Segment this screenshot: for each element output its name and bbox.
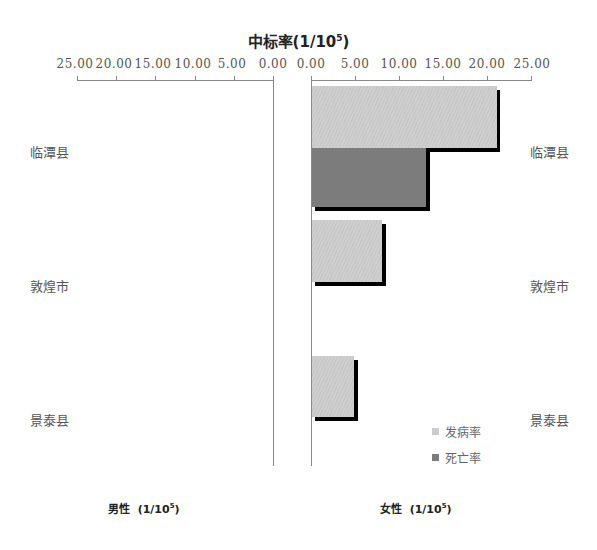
axis-tick — [116, 76, 117, 81]
unit-prefix: (1/10 — [410, 503, 442, 516]
title-unit-prefix: (1/10 — [293, 33, 337, 51]
left-x-axis — [77, 80, 274, 81]
right-tick-label: 5.00 — [330, 57, 380, 71]
axis-tick — [155, 76, 156, 81]
right-tick-label: 15.00 — [418, 57, 468, 71]
unit-prefix: (1/10 — [138, 503, 170, 516]
axis-tick — [195, 76, 196, 81]
axis-tick — [443, 76, 444, 81]
right-tick-label: 25.00 — [507, 57, 557, 71]
axis-tick — [531, 76, 532, 81]
bar-lintan-mortality — [312, 148, 426, 207]
bar-jingtai-incidence — [312, 356, 354, 417]
left-y-axis — [273, 76, 274, 466]
category-label-right: 敦煌市 — [530, 276, 569, 295]
category-label-left: 临潭县 — [30, 142, 69, 161]
unit-suffix: ) — [447, 503, 452, 516]
right-tick-label: 10.00 — [374, 57, 424, 71]
female-axis-label: 女性 (1/105) — [380, 500, 452, 516]
legend-label: 发病率 — [445, 423, 481, 440]
axis-tick — [399, 76, 400, 81]
axis-tick — [355, 76, 356, 81]
right-x-axis — [311, 80, 532, 81]
bar-lintan-incidence — [312, 86, 497, 148]
category-label-left: 敦煌市 — [30, 276, 69, 295]
bar-dunhuang-incidence — [312, 220, 382, 282]
unit-suffix: ) — [175, 503, 180, 516]
right-tick-label: 0.00 — [286, 57, 336, 71]
category-label-right: 临潭县 — [530, 142, 569, 161]
male-label-text: 男性 — [108, 503, 130, 516]
chart-title: 中标率(1/105) — [0, 30, 597, 51]
legend-swatch-mortality — [432, 454, 439, 461]
axis-tick — [487, 76, 488, 81]
female-label-text: 女性 — [380, 503, 402, 516]
category-label-right: 景泰县 — [530, 410, 569, 429]
axis-tick — [77, 76, 78, 81]
category-label-left: 景泰县 — [30, 410, 69, 429]
title-unit-suffix: ) — [343, 33, 350, 51]
right-tick-label: 20.00 — [462, 57, 512, 71]
legend-label: 死亡率 — [445, 449, 481, 466]
chart-title-text: 中标率 — [248, 33, 293, 51]
axis-tick — [234, 76, 235, 81]
male-axis-label: 男性 (1/105) — [108, 500, 180, 516]
legend-swatch-incidence — [432, 428, 439, 435]
legend-item-incidence: 发病率 — [432, 423, 481, 440]
legend-item-mortality: 死亡率 — [432, 449, 481, 466]
